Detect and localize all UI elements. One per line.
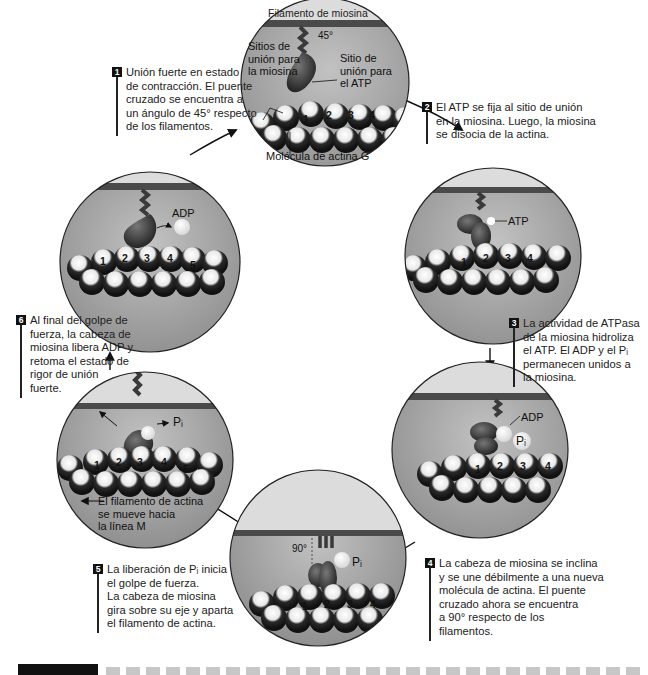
actin-number: 3	[348, 109, 354, 121]
atp-binding-site-label: Sitio de unión para el ATP	[340, 52, 392, 90]
actin-number: 2	[497, 460, 503, 472]
angle-45-label: 45°	[318, 30, 333, 43]
step-1-description: 1 Unión fuerte en estado de contracción.…	[112, 66, 257, 134]
actin-number: 3	[505, 252, 511, 264]
step-6-description: 6 Al final del golpe de fuerza, la cabez…	[16, 314, 133, 396]
step-5-description: 5 La liberación de Pᵢ inicia el golpe de…	[93, 563, 233, 631]
actin-number: 2	[326, 109, 332, 121]
actin-number: 2	[324, 598, 330, 610]
actin-number: 4	[527, 252, 533, 264]
actin-number: 2	[116, 456, 122, 468]
actin-number: 1	[100, 255, 106, 267]
step-4-description: 4 La cabeza de miosina se inclina y se u…	[425, 557, 604, 639]
angle-90-label: 90°	[292, 543, 307, 556]
step-text: La liberación de Pᵢ inicia el golpe de f…	[107, 563, 233, 631]
actin-number: 1	[461, 256, 467, 268]
atp-label: ATP	[508, 215, 529, 228]
caption-text-cropped	[106, 667, 646, 675]
step-number-badge: 4	[425, 558, 435, 568]
step-number-badge: 2	[422, 102, 432, 112]
pi-label: Pᵢ	[516, 435, 526, 448]
panel-3	[390, 360, 580, 550]
actin-number: 4	[369, 109, 375, 121]
myosin-filament-label: Filamento de miosina	[268, 7, 368, 20]
actin-number: 3	[520, 460, 526, 472]
adp-label: ADP	[521, 411, 544, 424]
actin-movement-label: El filamento de actina se mueve hacia la…	[98, 495, 203, 533]
actin-number: 1	[94, 459, 100, 471]
step-bar	[97, 565, 99, 633]
step-text: El ATP se fija al sitio de unión en la m…	[436, 101, 596, 142]
step-number-badge: 3	[509, 318, 519, 328]
cross-bridge-cycle-figure: Filamento de miosina 45° Sitios de unión…	[0, 0, 648, 675]
step-2-description: 2 El ATP se fija al sitio de unión en la…	[422, 101, 596, 142]
pi-label: Pᵢ	[352, 556, 362, 569]
panel-4	[228, 468, 408, 648]
step-text: La actividad de ATPasa de la miosina hid…	[523, 317, 640, 385]
figure-label-badge	[18, 664, 98, 675]
step-number-badge: 6	[16, 315, 26, 325]
step-number-badge: 5	[93, 564, 103, 574]
actin-number: 5	[190, 259, 196, 271]
actin-g-molecule-label: Molécula de actina G	[266, 150, 369, 163]
step-3-description: 3 La actividad de ATPasa de la miosina h…	[509, 317, 640, 385]
actin-number: 4	[167, 252, 173, 264]
step-number-badge: 1	[112, 67, 122, 77]
actin-number: 3	[347, 598, 353, 610]
actin-number: 5	[183, 463, 189, 475]
actin-number: 1	[302, 600, 308, 612]
actin-number: 1	[303, 113, 309, 125]
step-bar	[20, 316, 22, 398]
actin-number: 3	[137, 456, 143, 468]
actin-number: 1	[475, 463, 481, 475]
actin-number: 4	[370, 598, 376, 610]
actin-number: 2	[122, 252, 128, 264]
step-text: La cabeza de miosina se inclina y se une…	[439, 557, 604, 639]
actin-number: 4	[161, 456, 167, 468]
step-text: Al final del golpe de fuerza, la cabeza …	[30, 314, 133, 396]
actin-number: 3	[144, 252, 150, 264]
actin-number: 4	[545, 460, 551, 472]
step-bar	[116, 68, 118, 136]
pi-label: Pᵢ	[173, 416, 183, 429]
step-text: Unión fuerte en estado de contracción. E…	[126, 66, 257, 134]
adp-label: ADP	[172, 207, 195, 220]
step-bar	[513, 319, 515, 387]
actin-number: 2	[483, 252, 489, 264]
step-bar	[429, 559, 431, 641]
